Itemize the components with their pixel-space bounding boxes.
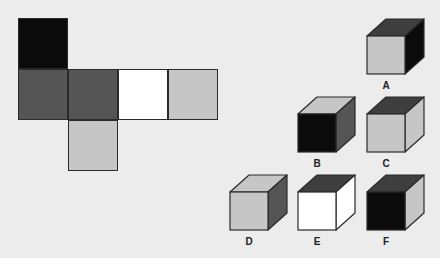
cube-label-d: D <box>239 236 259 247</box>
cube-label-b: B <box>307 158 327 169</box>
cube-option-a[interactable] <box>366 18 426 78</box>
net-bottom-square <box>68 120 118 171</box>
net-center-square <box>68 69 118 120</box>
cube-icon <box>297 174 357 234</box>
cube-icon <box>366 96 426 156</box>
cube-label-a: A <box>376 80 396 91</box>
net-top-square <box>18 18 68 69</box>
cube-option-e[interactable] <box>297 174 357 234</box>
cube-icon <box>366 174 426 234</box>
cube-icon <box>229 174 289 234</box>
cube-option-b[interactable] <box>297 96 357 156</box>
cube-label-c: C <box>376 158 396 169</box>
net-right-1-square <box>118 69 168 120</box>
cube-label-f: F <box>376 236 396 247</box>
cube-option-c[interactable] <box>366 96 426 156</box>
cube-option-d[interactable] <box>229 174 289 234</box>
cube-icon <box>366 18 426 78</box>
cube-icon <box>297 96 357 156</box>
cube-label-e: E <box>307 236 327 247</box>
cube-option-f[interactable] <box>366 174 426 234</box>
net-left-square <box>18 69 68 120</box>
net-right-2-square <box>168 69 218 120</box>
